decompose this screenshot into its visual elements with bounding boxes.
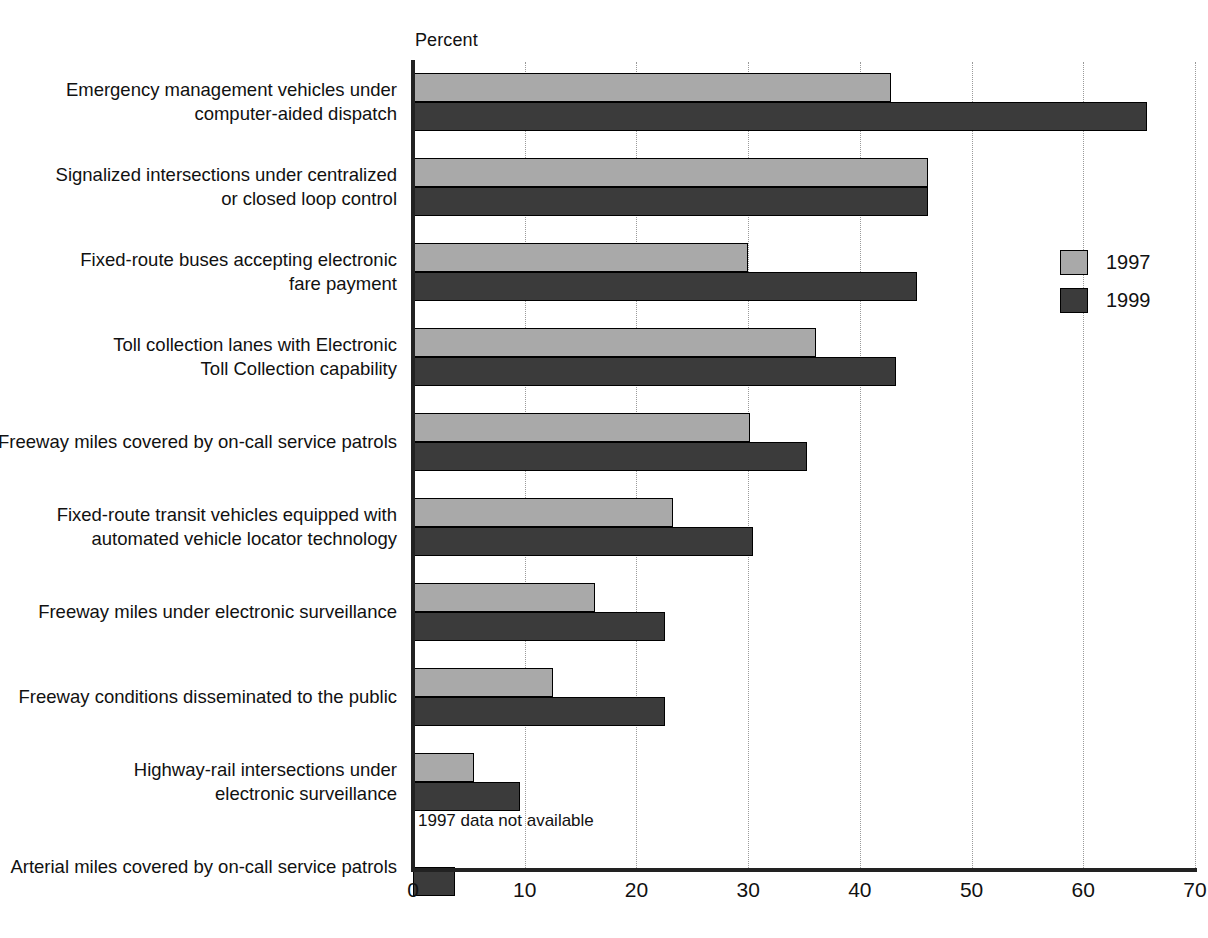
chart-title-clipped — [0, 0, 1208, 1]
bar-1999 — [413, 697, 665, 726]
bar-group — [413, 413, 1195, 471]
bar-1997 — [413, 328, 816, 357]
category-label: Highway-rail intersections under electro… — [0, 758, 397, 806]
bar-1997 — [413, 413, 750, 442]
x-tick-label: 10 — [513, 878, 536, 902]
category-label: Arterial miles covered by on-call servic… — [0, 855, 397, 879]
bar-group — [413, 583, 1195, 641]
no-data-annotation: 1997 data not available — [418, 811, 594, 831]
bar-chart: Percent Emergency management vehicles un… — [0, 0, 1208, 938]
bar-1997 — [413, 158, 928, 187]
bar-group — [413, 158, 1195, 216]
x-tick-label: 50 — [960, 878, 983, 902]
bar-1997 — [413, 583, 595, 612]
bar-1999 — [413, 357, 896, 386]
x-axis-line — [411, 868, 1197, 872]
bar-1997 — [413, 668, 553, 697]
x-tick-label: 0 — [407, 878, 419, 902]
category-label: Freeway miles under electronic surveilla… — [0, 600, 397, 624]
plot-area: 1997 data not available — [413, 62, 1195, 870]
bar-group — [413, 668, 1195, 726]
legend-item-1997[interactable]: 1997 — [1060, 243, 1180, 281]
category-label: Freeway conditions disseminated to the p… — [0, 685, 397, 709]
bar-1999 — [413, 782, 520, 811]
legend: 19971999 — [1060, 243, 1180, 319]
category-label: Toll collection lanes with Electronic To… — [0, 333, 397, 381]
bar-1997 — [413, 498, 673, 527]
category-label: Fixed-route buses accepting electronic f… — [0, 248, 397, 296]
x-axis-unit-label: Percent — [415, 30, 478, 51]
bar-group — [413, 73, 1195, 131]
bar-1997 — [413, 73, 891, 102]
bar-group — [413, 328, 1195, 386]
bar-1997 — [413, 243, 748, 272]
x-tick-label: 70 — [1183, 878, 1206, 902]
category-label: Fixed-route transit vehicles equipped wi… — [0, 503, 397, 551]
bar-1999 — [413, 527, 753, 556]
x-tick-label: 30 — [736, 878, 759, 902]
bar-1997 — [413, 753, 474, 782]
x-tick-label: 40 — [848, 878, 871, 902]
legend-item-1999[interactable]: 1999 — [1060, 281, 1180, 319]
bar-group — [413, 753, 1195, 811]
y-axis-line — [411, 60, 415, 872]
bar-1999 — [413, 612, 665, 641]
category-labels: Emergency management vehicles under comp… — [0, 62, 405, 870]
x-tick-label: 60 — [1072, 878, 1095, 902]
bar-1999 — [413, 187, 928, 216]
bar-group — [413, 498, 1195, 556]
bar-1999 — [413, 442, 807, 471]
legend-swatch-icon — [1060, 288, 1088, 313]
bar-1999 — [413, 272, 917, 301]
bar-1999 — [413, 102, 1147, 131]
category-label: Emergency management vehicles under comp… — [0, 78, 397, 126]
legend-label: 1997 — [1106, 251, 1151, 274]
x-axis-tick-labels: 010203040506070 — [413, 878, 1195, 918]
legend-swatch-icon — [1060, 250, 1088, 275]
legend-label: 1999 — [1106, 289, 1151, 312]
gridline — [1195, 62, 1196, 870]
x-tick-label: 20 — [625, 878, 648, 902]
category-label: Signalized intersections under centraliz… — [0, 163, 397, 211]
category-label: Freeway miles covered by on-call service… — [0, 430, 397, 454]
